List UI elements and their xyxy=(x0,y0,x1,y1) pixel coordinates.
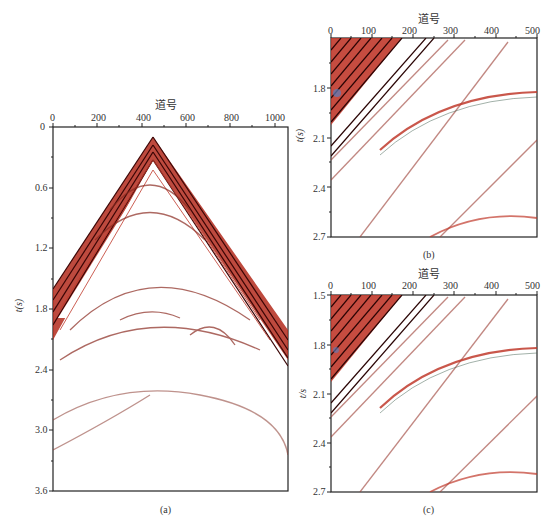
seismic-window-b xyxy=(290,0,559,270)
panel-caption: (c) xyxy=(423,504,434,515)
seismic-gather-a xyxy=(0,0,300,530)
panel-a: 道号 0 200 400 600 800 1000 0 0.6 1.2 1.8 … xyxy=(0,0,300,530)
panel-c: 道号 0 100 200 300 400 500 1.5 1.8 2.1 2.4… xyxy=(290,258,559,530)
panel-b: 道号 0 100 200 300 400 500 1.8 2.1 2.4 2.7… xyxy=(290,0,559,270)
panel-caption: (a) xyxy=(160,504,171,515)
seismic-window-c xyxy=(290,258,559,530)
